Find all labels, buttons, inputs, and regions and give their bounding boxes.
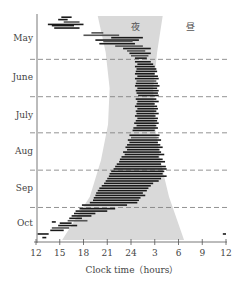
activity-bar bbox=[138, 95, 159, 97]
activity-bar bbox=[128, 139, 161, 141]
activity-bar bbox=[125, 146, 162, 148]
activity-bar bbox=[104, 183, 153, 185]
x-tick-label: 12 bbox=[30, 248, 41, 258]
activity-bar bbox=[72, 215, 92, 217]
month-label: May bbox=[13, 33, 34, 43]
activity-bar bbox=[42, 237, 46, 239]
activity-bar bbox=[136, 90, 159, 92]
activity-bar bbox=[74, 213, 95, 215]
day-label: 昼 bbox=[186, 22, 195, 32]
activity-bar bbox=[82, 204, 127, 206]
activity-bar bbox=[68, 220, 88, 222]
activity-bar bbox=[99, 187, 148, 189]
activity-bar bbox=[137, 125, 157, 127]
activity-bar bbox=[134, 122, 159, 124]
activity-bar bbox=[94, 197, 141, 199]
activity-bar bbox=[111, 37, 143, 39]
activity-bar bbox=[69, 218, 82, 220]
night-band bbox=[62, 16, 184, 240]
night-label: 夜 bbox=[131, 21, 140, 32]
x-tick-label: 18 bbox=[78, 248, 90, 258]
activity-bar bbox=[135, 61, 151, 63]
activity-bar bbox=[76, 210, 108, 212]
activity-bar bbox=[90, 202, 138, 204]
activity-bar bbox=[102, 185, 151, 187]
activity-bar bbox=[52, 227, 69, 229]
activity-bar bbox=[109, 175, 167, 177]
x-tick-label: 3 bbox=[152, 248, 158, 258]
activity-bar bbox=[137, 92, 158, 94]
x-tick-label: 21 bbox=[102, 248, 113, 258]
month-label: Sep bbox=[16, 183, 33, 193]
activity-bar bbox=[127, 149, 159, 151]
activity-bar bbox=[115, 45, 143, 47]
activity-bar bbox=[127, 144, 160, 146]
activity-bar bbox=[119, 161, 165, 163]
activity-bar bbox=[106, 180, 159, 182]
activity-bar bbox=[135, 106, 157, 108]
activity-bar bbox=[54, 27, 79, 29]
activity-bar bbox=[136, 83, 158, 85]
activity-bar bbox=[133, 127, 158, 129]
x-tick-label: 12 bbox=[220, 248, 231, 258]
activity-bar bbox=[135, 57, 147, 59]
activity-bar bbox=[137, 68, 157, 70]
activity-bar bbox=[137, 63, 153, 65]
activity-bar bbox=[38, 233, 49, 235]
activity-bar bbox=[50, 230, 63, 232]
x-tick-label: 15 bbox=[54, 248, 66, 258]
activity-bar bbox=[135, 66, 155, 68]
x-tick-label: 6 bbox=[176, 248, 182, 258]
activity-bar bbox=[99, 43, 135, 45]
activity-bar bbox=[123, 48, 151, 50]
activity-bar bbox=[137, 113, 159, 115]
activity-bar bbox=[111, 171, 164, 173]
activity-bar bbox=[84, 34, 120, 36]
activity-bar bbox=[137, 101, 158, 103]
activity-bar bbox=[127, 50, 145, 52]
activity-bar bbox=[136, 71, 157, 73]
activity-bar bbox=[58, 19, 68, 21]
activity-bar bbox=[52, 25, 74, 27]
activity-bar bbox=[93, 199, 139, 201]
x-axis-title: Clock time（hours） bbox=[86, 265, 179, 275]
month-labels-layer: MayJuneJulyAugSepOct bbox=[11, 33, 33, 228]
activity-bar bbox=[58, 225, 77, 227]
night-band-layer bbox=[62, 16, 184, 240]
month-label: Aug bbox=[14, 146, 33, 156]
activity-bar bbox=[136, 98, 157, 100]
activity-bar bbox=[131, 137, 159, 139]
activity-bar bbox=[136, 110, 157, 112]
activity-bar bbox=[129, 134, 159, 136]
activity-bar bbox=[135, 85, 160, 87]
activity-bar bbox=[137, 87, 157, 89]
activity-bar bbox=[135, 73, 155, 75]
activity-bar bbox=[114, 168, 167, 170]
activity-bar bbox=[96, 192, 143, 194]
activity-bar bbox=[60, 222, 72, 224]
actogram-chart: 121518212436912 MayJuneJulyAugSepOct 夜 昼… bbox=[0, 0, 241, 283]
activity-bar bbox=[122, 156, 159, 158]
activity-bar bbox=[110, 173, 163, 175]
activity-bar bbox=[135, 115, 156, 117]
activity-bar bbox=[135, 78, 159, 80]
activity-bar bbox=[133, 130, 155, 132]
activity-bar bbox=[80, 208, 116, 210]
activity-bar bbox=[107, 178, 161, 180]
month-label: June bbox=[11, 72, 33, 82]
activity-bar bbox=[137, 108, 158, 110]
activity-bar bbox=[137, 80, 157, 82]
activity-bar bbox=[61, 16, 71, 18]
activity-bar bbox=[95, 195, 145, 197]
month-label: July bbox=[15, 110, 34, 120]
month-label: Oct bbox=[17, 218, 33, 228]
activity-bar bbox=[117, 163, 161, 165]
activity-bar bbox=[123, 151, 161, 153]
activity-bar bbox=[64, 21, 80, 23]
activity-bar bbox=[137, 103, 155, 105]
activity-bar bbox=[131, 55, 148, 57]
activity-bar bbox=[98, 190, 147, 192]
activity-bar bbox=[137, 118, 158, 120]
activity-bar bbox=[223, 233, 226, 235]
x-tick-label: 24 bbox=[125, 248, 137, 258]
